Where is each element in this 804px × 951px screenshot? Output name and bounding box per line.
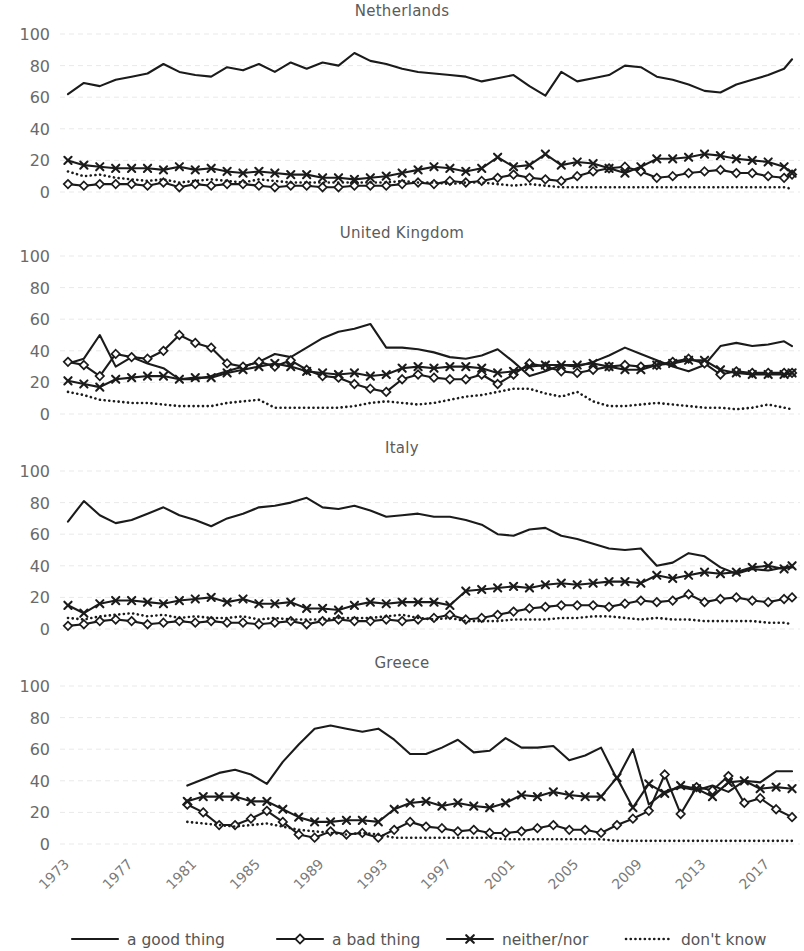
- panel-title: United Kingdom: [0, 222, 804, 244]
- small-multiples-chart: Netherlands020406080100United Kingdom020…: [0, 0, 804, 951]
- plot-area: 020406080100: [0, 22, 804, 210]
- x-axis-tick-label: 2009: [609, 856, 646, 893]
- series-line-a-good-thing: [68, 53, 792, 96]
- legend-item-don-t-know[interactable]: don't know: [626, 931, 767, 949]
- x-axis-tick-label: 2013: [672, 856, 709, 893]
- y-axis-tick-label: 20: [30, 151, 50, 170]
- y-axis-tick-label: 0: [40, 835, 50, 854]
- y-axis-tick-label: 60: [30, 525, 50, 544]
- y-axis-tick-label: 0: [40, 183, 50, 202]
- legend-label: a good thing: [127, 931, 225, 949]
- y-axis-tick-label: 0: [40, 405, 50, 424]
- plot-area: 020406080100: [0, 459, 804, 647]
- y-axis-tick-label: 60: [30, 310, 50, 329]
- y-axis-tick-label: 20: [30, 373, 50, 392]
- y-axis-tick-label: 80: [30, 57, 50, 76]
- y-axis-tick-label: 60: [30, 740, 50, 759]
- series-line-don-t-know: [68, 389, 792, 410]
- panel-italy: Italy020406080100: [0, 437, 804, 647]
- legend-item-a-bad-thing[interactable]: a bad thing: [277, 931, 420, 949]
- series-markers-x: [64, 562, 795, 617]
- series-line-a-good-thing: [187, 726, 792, 805]
- legend-item-neither-nor[interactable]: neither/nor: [447, 931, 589, 949]
- x-axis: 1973197719811985198919931997200120052009…: [0, 855, 804, 915]
- y-axis-tick-label: 40: [30, 557, 50, 576]
- y-axis-tick-label: 40: [30, 342, 50, 361]
- y-axis-tick-label: 60: [30, 88, 50, 107]
- legend-label: neither/nor: [502, 931, 589, 949]
- y-axis-tick-label: 20: [30, 588, 50, 607]
- panel-title: Greece: [0, 652, 804, 674]
- y-axis-tick-label: 100: [19, 247, 50, 266]
- y-axis-tick-label: 40: [30, 772, 50, 791]
- series-line-neither-nor: [68, 154, 792, 179]
- plot-area: 020406080100: [0, 674, 804, 862]
- series-markers-diamond: [64, 590, 796, 630]
- x-axis-tick-label: 2017: [736, 856, 773, 893]
- legend-label: don't know: [681, 931, 767, 949]
- x-axis-tick-label: 1973: [36, 856, 73, 893]
- y-axis-tick-label: 80: [30, 709, 50, 728]
- y-axis-tick-label: 100: [19, 25, 50, 44]
- x-axis-tick-label: 1985: [227, 856, 264, 893]
- series-markers-x: [64, 357, 795, 391]
- legend-item-a-good-thing[interactable]: a good thing: [72, 931, 225, 949]
- x-axis-tick-label: 2001: [481, 856, 518, 893]
- x-axis-tick-label: 1981: [163, 856, 200, 893]
- y-axis-tick-label: 80: [30, 494, 50, 513]
- series-line-neither-nor: [187, 778, 792, 822]
- x-axis-tick-label: 1993: [354, 856, 391, 893]
- y-axis-tick-label: 40: [30, 120, 50, 139]
- diamond-marker-icon: [295, 934, 304, 943]
- x-axis-tick-label: 1997: [418, 856, 455, 893]
- y-axis-tick-label: 0: [40, 620, 50, 639]
- y-axis-tick-label: 80: [30, 279, 50, 298]
- x-axis-tick-label: 1977: [99, 856, 136, 893]
- panel-united-kingdom: United Kingdom020406080100: [0, 222, 804, 432]
- panel-netherlands: Netherlands020406080100: [0, 0, 804, 210]
- y-axis-tick-label: 20: [30, 803, 50, 822]
- x-axis-tick-label: 1989: [290, 856, 327, 893]
- panel-title: Netherlands: [0, 0, 804, 22]
- legend-label: a bad thing: [332, 931, 420, 949]
- panel-title: Italy: [0, 437, 804, 459]
- chart-legend: a good thinga bad thingneither/nordon't …: [0, 922, 804, 951]
- x-axis-tick-label: 2005: [545, 856, 582, 893]
- y-axis-tick-label: 100: [19, 677, 50, 696]
- panel-greece: Greece020406080100: [0, 652, 804, 862]
- series-line-a-good-thing: [68, 498, 792, 574]
- y-axis-tick-label: 100: [19, 462, 50, 481]
- plot-area: 020406080100: [0, 244, 804, 432]
